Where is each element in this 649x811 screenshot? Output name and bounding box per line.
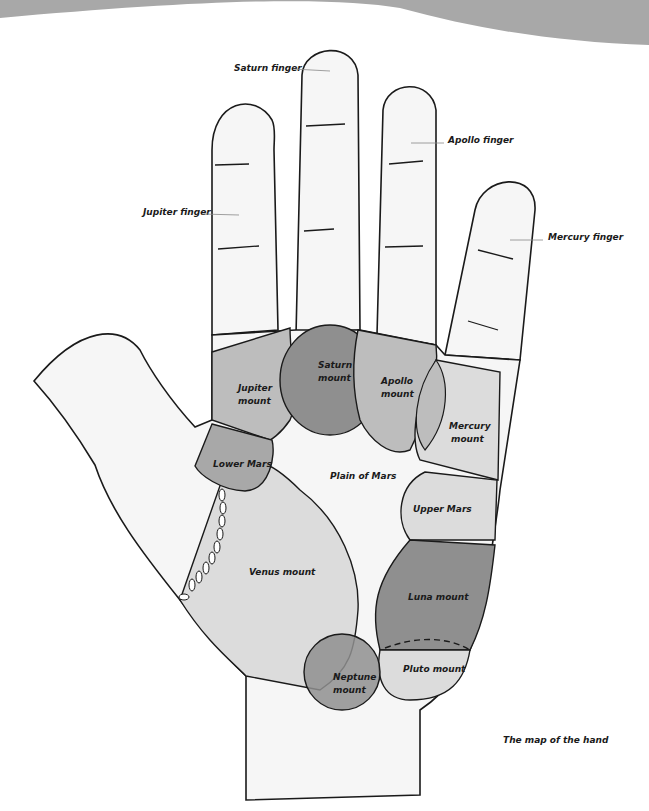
label-apollo-finger: Apollo finger bbox=[447, 135, 514, 145]
label-apollo-mount-1: Apollo bbox=[380, 376, 413, 386]
pluto-mount bbox=[379, 650, 470, 700]
label-saturn-mount-2: mount bbox=[318, 373, 351, 383]
label-saturn-finger: Saturn finger bbox=[234, 63, 302, 73]
label-neptune-mount-1: Neptune bbox=[333, 672, 376, 682]
saturn-finger bbox=[296, 51, 360, 335]
hand-map-diagram: Saturn finger Apollo finger Jupiter fing… bbox=[0, 0, 649, 811]
diagram-caption: The map of the hand bbox=[503, 735, 609, 745]
top-banner bbox=[0, 0, 649, 45]
jupiter-finger bbox=[212, 104, 278, 335]
label-upper-mars: Upper Mars bbox=[413, 504, 472, 514]
label-mercury-finger: Mercury finger bbox=[548, 232, 624, 242]
label-neptune-mount-2: mount bbox=[333, 685, 366, 695]
label-plain-of-mars: Plain of Mars bbox=[330, 471, 397, 481]
label-saturn-mount-1: Saturn bbox=[318, 360, 352, 370]
fingers bbox=[212, 51, 535, 360]
label-jupiter-mount-1: Jupiter bbox=[236, 383, 273, 393]
label-pluto-mount: Pluto mount bbox=[403, 664, 466, 674]
label-apollo-mount-2: mount bbox=[381, 389, 414, 399]
label-venus-mount: Venus mount bbox=[249, 567, 316, 577]
mercury-finger bbox=[445, 182, 535, 360]
label-jupiter-mount-2: mount bbox=[238, 396, 271, 406]
label-lower-mars: Lower Mars bbox=[213, 459, 272, 469]
label-mercury-mount-2: mount bbox=[451, 434, 484, 444]
label-luna-mount: Luna mount bbox=[408, 592, 469, 602]
label-jupiter-finger: Jupiter finger bbox=[141, 207, 211, 217]
apollo-finger bbox=[377, 87, 436, 345]
label-mercury-mount-1: Mercury bbox=[449, 421, 492, 431]
